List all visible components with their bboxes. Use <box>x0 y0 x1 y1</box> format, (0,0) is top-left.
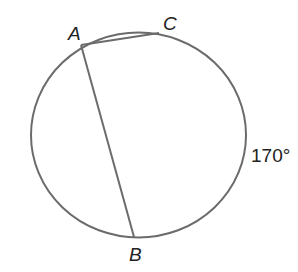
arc-measure-label: 170° <box>251 146 290 165</box>
circle-diagram <box>0 0 298 272</box>
point-b-label: B <box>129 245 142 264</box>
chord-ab <box>81 45 134 237</box>
point-a-label: A <box>68 24 81 43</box>
point-c-label: C <box>163 14 177 33</box>
circle <box>31 33 246 238</box>
